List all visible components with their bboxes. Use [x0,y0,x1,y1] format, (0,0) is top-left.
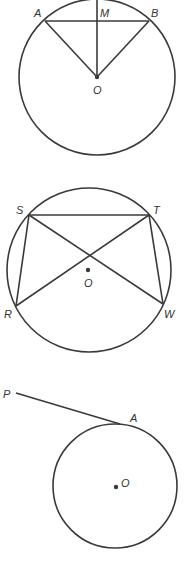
segment-tw [149,215,163,304]
center-point-o [114,485,118,489]
geometry-diagrams: A M B O S T R W O P A O [0,0,186,569]
radius-ob [97,21,149,77]
figure-tangent: P A O [3,388,177,548]
label-a: A [33,7,41,19]
label-p: P [3,388,11,400]
label-o: O [93,84,102,96]
figure-chord-midpoint: A M B O [19,0,175,155]
radius-oa [45,21,97,77]
label-o: O [84,277,93,289]
diagonal-sw [29,215,163,304]
label-o: O [121,477,130,489]
center-point-o [95,75,99,79]
label-s: S [16,204,24,216]
label-m: M [100,7,110,19]
center-point-o [86,268,90,272]
label-w: W [164,308,176,320]
label-b: B [151,7,158,19]
label-t: T [153,204,161,216]
label-r: R [4,308,12,320]
label-a: A [129,412,137,424]
diagonal-tr [16,215,149,306]
tangent-pa [16,393,120,424]
figure-inscribed-quadrilateral: S T R W O [4,188,176,352]
